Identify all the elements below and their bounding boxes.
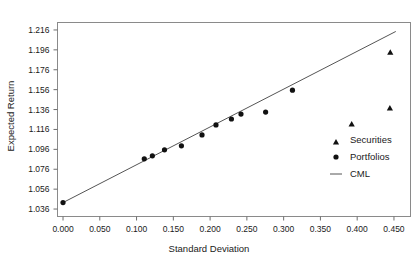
portfolio-point <box>263 109 268 114</box>
security-point <box>387 105 393 111</box>
x-tick-label: 0.200 <box>199 224 221 234</box>
legend-marker-securities <box>333 139 339 145</box>
x-axis-ticks <box>63 217 394 221</box>
y-tick-label: 1.176 <box>28 65 50 75</box>
portfolio-point <box>199 132 204 137</box>
portfolio-point <box>150 153 155 158</box>
cml-line <box>63 31 396 202</box>
security-point <box>349 121 355 127</box>
portfolio-point <box>290 88 295 93</box>
portfolio-point <box>162 147 167 152</box>
portfolio-point <box>238 111 243 116</box>
x-axis-title: Standard Deviation <box>169 243 250 254</box>
y-tick-label: 1.216 <box>28 25 50 35</box>
x-tick-label: 0.100 <box>126 224 148 234</box>
x-tick-label: 0.400 <box>347 224 369 234</box>
x-tick-label: 0.000 <box>52 224 74 234</box>
legend-label-portfolios: Portfolios <box>350 151 390 162</box>
y-tick-label: 1.196 <box>28 45 50 55</box>
portfolio-point <box>179 143 184 148</box>
portfolio-point <box>142 156 147 161</box>
legend-marker-portfolios <box>333 154 338 159</box>
securities-series <box>349 49 394 126</box>
x-tick-label: 0.450 <box>383 224 405 234</box>
chart-container: 0.0000.0500.1000.1500.2000.2500.3000.350… <box>0 0 419 261</box>
portfolios-series <box>60 88 295 206</box>
y-tick-label: 1.116 <box>29 124 50 134</box>
x-tick-label: 0.250 <box>236 224 258 234</box>
y-axis-ticks <box>54 30 58 209</box>
y-tick-label: 1.156 <box>28 85 50 95</box>
security-point <box>387 49 393 55</box>
portfolio-point <box>213 122 218 127</box>
y-tick-label: 1.096 <box>28 144 50 154</box>
y-tick-label: 1.076 <box>28 164 50 174</box>
legend-label-cml: CML <box>350 168 370 179</box>
y-tick-label: 1.056 <box>28 184 50 194</box>
y-tick-label: 1.036 <box>28 204 50 214</box>
portfolio-point <box>229 116 234 121</box>
x-tick-label: 0.300 <box>273 224 295 234</box>
y-tick-label: 1.136 <box>28 105 50 115</box>
y-axis-tick-labels: 1.0361.0561.0761.0961.1161.1361.1561.176… <box>28 25 50 214</box>
chart-legend: SecuritiesPortfoliosCML <box>330 134 392 179</box>
x-tick-label: 0.150 <box>163 224 185 234</box>
x-axis-tick-labels: 0.0000.0500.1000.1500.2000.2500.3000.350… <box>52 224 404 234</box>
cml-line-path <box>63 31 396 202</box>
legend-label-securities: Securities <box>350 134 392 145</box>
portfolio-point <box>60 200 65 205</box>
x-tick-label: 0.350 <box>310 224 332 234</box>
y-axis-title: Expected Return <box>5 81 16 152</box>
x-tick-label: 0.050 <box>89 224 111 234</box>
capital-market-line-scatter-chart: 0.0000.0500.1000.1500.2000.2500.3000.350… <box>0 0 419 261</box>
